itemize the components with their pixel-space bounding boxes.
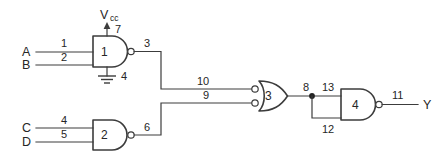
gate2-number-label: 2	[101, 128, 108, 142]
gate1-number-label: 1	[101, 45, 108, 59]
input-label-a: A	[22, 45, 31, 59]
pin-label-gate1-gnd: 4	[121, 70, 127, 82]
pin-label-gate3-out: 8	[303, 81, 309, 93]
pin-label-gate2-out: 6	[144, 121, 150, 133]
pin-label-gate1-out: 3	[144, 37, 150, 49]
gate1-output-bubble	[128, 48, 134, 54]
gate3-input-bubble-top	[252, 86, 258, 92]
pin-label-c: 4	[61, 114, 67, 126]
pin-label-gate1-vcc: 7	[115, 23, 121, 35]
vcc-label: V	[100, 8, 109, 22]
gate1-nand-body	[93, 36, 127, 67]
pin-label-d: 5	[61, 128, 67, 140]
vcc-arrow-icon	[104, 22, 111, 29]
pin-label-gate3-in-bottom: 9	[203, 89, 209, 101]
ground-icon	[98, 76, 116, 83]
pin-label-gate3-in-top: 10	[197, 75, 209, 87]
gate3-or-body	[259, 81, 288, 111]
pin-label-b: 2	[61, 51, 67, 63]
pin-label-gate4-in-bottom: 12	[322, 123, 334, 135]
gate3-number-label: 3	[265, 89, 272, 103]
wire-gate1-out-to-gate3	[134, 52, 252, 90]
circuit-diagram: V cc 7 4 A B C D 1 2 4 5 1 2 3 4 3 6 10 …	[0, 0, 436, 164]
pin-label-gate4-in-top: 13	[322, 81, 334, 93]
gate3-input-bubble-bottom	[252, 100, 258, 106]
wire-branch-to-pin12	[312, 96, 341, 118]
pin-label-a: 1	[61, 37, 67, 49]
output-label-y: Y	[423, 98, 432, 112]
input-label-b: B	[22, 58, 30, 72]
input-label-c: C	[22, 121, 31, 135]
vcc-subscript-label: cc	[110, 13, 119, 23]
gate2-output-bubble	[128, 132, 134, 138]
input-label-d: D	[22, 135, 31, 149]
gate4-number-label: 4	[352, 98, 359, 112]
pin-label-gate4-out: 11	[392, 89, 403, 101]
gate2-nand-body	[93, 120, 127, 150]
circuit-canvas: V cc 7 4 A B C D 1 2 4 5 1 2 3 4 3 6 10 …	[0, 0, 436, 164]
wire-gate2-out-to-gate3	[134, 103, 252, 135]
gate4-output-bubble	[376, 101, 382, 107]
